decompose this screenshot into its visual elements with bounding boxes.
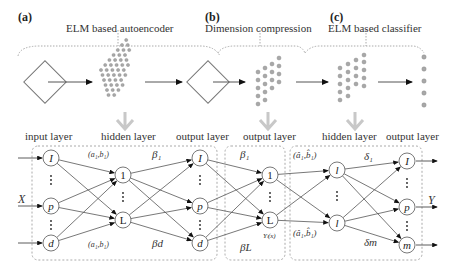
svg-text:L: L [267, 214, 274, 226]
compressed-node: 1 [262, 167, 278, 183]
label-output-layer-3: output layer [386, 130, 439, 142]
down-arrow-icon [117, 112, 363, 129]
title-compression: Dimension compression [205, 22, 312, 34]
output-dot-column [422, 55, 426, 107]
label-output-layer-2: output layer [243, 130, 296, 142]
svg-text:d: d [48, 237, 54, 249]
svg-text:p: p [403, 201, 410, 213]
input-x-label: X [18, 192, 25, 207]
edge-label-betad: βd [152, 237, 163, 249]
edge-label-beta1-a: β₁ [152, 148, 161, 160]
label-input-layer: input layer [25, 130, 72, 142]
classifier-output-node: m [399, 237, 415, 253]
autoencoder-box [32, 146, 217, 260]
classifier-hidden-node: l [329, 162, 345, 178]
classifier-output-node: p [399, 199, 415, 215]
svg-text:p: p [196, 200, 203, 212]
panel-label-a: (a) [18, 10, 32, 25]
classifier-dot-cloud [338, 53, 366, 102]
svg-text:m: m [403, 239, 411, 251]
classifier-hidden-node: l [329, 215, 345, 231]
svg-text:1: 1 [120, 169, 126, 181]
output-y-label: Y [428, 193, 435, 208]
title-classifier: ELM based classifier [328, 22, 421, 34]
label-hidden-layer-1: hidden layer [101, 130, 156, 142]
output-node: p [192, 198, 208, 214]
edge-label-deltam: δm [364, 236, 377, 248]
input-node: d [43, 235, 59, 251]
edge-label-a1b1-top: (a₁,b₁) [88, 150, 109, 159]
svg-text:d: d [197, 237, 203, 249]
edge-label-delta1: δ₁ [364, 150, 373, 162]
title-autoencoder: ELM based autoencoder [66, 22, 174, 34]
hidden-node: L [115, 212, 131, 228]
input-node: p [43, 198, 59, 214]
edge-label-a1b1-bottom: (a₁,b₁) [88, 240, 109, 249]
hidden-dot-cloud [99, 38, 130, 96]
output-node: I [192, 150, 208, 166]
svg-text:1: 1 [267, 169, 273, 181]
compressed-node: L [262, 212, 278, 228]
hidden-node: 1 [115, 167, 131, 183]
compression-box [225, 146, 285, 260]
output-node: d [192, 235, 208, 251]
edge-label-betaL: βL [240, 241, 252, 253]
svg-text:p: p [47, 200, 54, 212]
svg-text:l: l [335, 217, 338, 229]
label-output-layer-1: output layer [176, 130, 229, 142]
classifier-output-node: I [399, 153, 415, 169]
edge-label-ahat-bottom: (â₁,b̂₁) [293, 228, 317, 238]
edge-label-beta1-b: β₁ [240, 148, 249, 160]
svg-text:l: l [335, 164, 338, 176]
compressed-dot-cloud [256, 56, 281, 106]
input-node: I [43, 150, 59, 166]
edge-label-ahat-top: (â₁,b̂₁) [293, 150, 317, 160]
label-hidden-layer-2: hidden layer [322, 130, 377, 142]
edge-label-yl: Yₗ(x) [263, 232, 276, 240]
svg-text:L: L [120, 214, 127, 226]
